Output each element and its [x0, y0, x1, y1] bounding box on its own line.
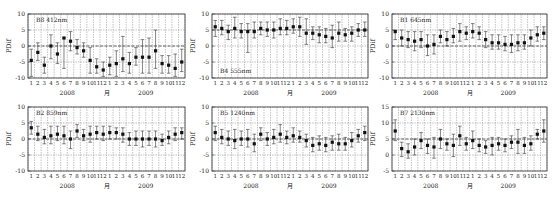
- data-point: [298, 136, 301, 139]
- x-tick-label: 6: [141, 80, 145, 86]
- data-point: [331, 141, 334, 144]
- data-point: [400, 36, 403, 39]
- x-tick-label: 1: [393, 80, 397, 86]
- data-point: [154, 137, 157, 140]
- data-point: [180, 60, 183, 63]
- x-tick-label: 1: [471, 173, 475, 179]
- data-point: [331, 36, 334, 39]
- x-tick-label: 4: [128, 173, 132, 179]
- x-tick-label: 4: [413, 80, 417, 86]
- year-label: 2009: [501, 182, 516, 189]
- x-tick-label: 8: [75, 173, 79, 179]
- x-tick-label: 5: [134, 173, 138, 179]
- data-point: [259, 27, 262, 30]
- y-tick-label: -5: [383, 58, 389, 65]
- x-tick-label: 7: [69, 173, 73, 179]
- year-label: 2009: [138, 182, 153, 189]
- data-point: [128, 137, 131, 140]
- x-tick-label: 2: [36, 80, 40, 86]
- x-tick-label: 1: [214, 173, 218, 179]
- data-point: [305, 32, 308, 35]
- x-tick-label: 6: [426, 80, 430, 86]
- x-tick-label: 7: [432, 80, 436, 86]
- x-tick-label: 8: [337, 80, 341, 86]
- data-point: [227, 137, 230, 140]
- data-point: [529, 142, 532, 145]
- x-tick-label: 7: [432, 173, 436, 179]
- x-tick-label: 5: [497, 173, 501, 179]
- data-point: [311, 32, 314, 35]
- year-label: 2008: [423, 182, 438, 189]
- y-tick-label: -10: [15, 167, 25, 174]
- x-tick-label: 2: [220, 80, 224, 86]
- year-label: 2008: [243, 182, 258, 189]
- year-label: 2008: [243, 89, 258, 96]
- x-tick-label: 7: [147, 80, 151, 86]
- x-tick-label: 1: [471, 80, 475, 86]
- x-tick-label: 4: [49, 80, 53, 86]
- y-tick-label: 10: [381, 10, 389, 17]
- data-point: [305, 139, 308, 142]
- y-axis-label: PDif: [369, 38, 377, 53]
- y-axis-label: PDif: [189, 38, 197, 53]
- y-tick-label: -5: [383, 167, 389, 174]
- x-tick-label: 6: [62, 80, 66, 86]
- x-tick-label: 2: [400, 173, 404, 179]
- data-point: [227, 30, 230, 33]
- data-point: [62, 36, 65, 39]
- data-point: [285, 27, 288, 30]
- x-tick-label: 2: [298, 80, 302, 86]
- x-tick-label: 3: [121, 173, 125, 179]
- y-tick-label: 10: [17, 103, 25, 110]
- data-point: [445, 142, 448, 145]
- data-point: [419, 38, 422, 41]
- data-point: [36, 51, 39, 54]
- data-point: [363, 28, 366, 31]
- x-tick-label: 5: [419, 80, 423, 86]
- data-point: [426, 144, 429, 147]
- y-tick-label: 5: [385, 26, 389, 33]
- data-point: [523, 41, 526, 44]
- x-tick-label: 5: [56, 173, 60, 179]
- x-tick-label: 2: [477, 80, 481, 86]
- panel-label: B5 1240nm: [220, 109, 255, 116]
- data-point: [174, 67, 177, 70]
- x-tick-label: 4: [128, 80, 132, 86]
- x-axis-label: 月: [104, 182, 110, 190]
- data-point: [523, 144, 526, 147]
- x-tick-label: 12: [361, 80, 368, 86]
- data-point: [465, 32, 468, 35]
- data-point: [510, 141, 513, 144]
- data-point: [134, 137, 137, 140]
- y-tick-label: 0: [21, 42, 25, 49]
- chart-panel-2: -10-505101234567891011121234567891011122…: [189, 10, 368, 97]
- data-point: [233, 27, 236, 30]
- data-point: [36, 133, 39, 136]
- data-point: [324, 35, 327, 38]
- x-tick-label: 3: [484, 173, 488, 179]
- data-point: [62, 134, 65, 137]
- data-point: [344, 33, 347, 36]
- y-tick-label: 15: [381, 103, 389, 110]
- y-tick-label: 5: [205, 119, 209, 126]
- data-point: [240, 30, 243, 33]
- x-tick-label: 8: [337, 173, 341, 179]
- x-tick-label: 6: [62, 173, 66, 179]
- y-axis-label: PDif: [5, 131, 13, 146]
- data-point: [394, 30, 397, 33]
- x-tick-label: 3: [305, 80, 309, 86]
- x-tick-label: 5: [240, 80, 244, 86]
- data-point: [458, 30, 461, 33]
- y-tick-label: 5: [21, 119, 25, 126]
- x-tick-label: 3: [406, 80, 410, 86]
- x-tick-label: 8: [259, 80, 263, 86]
- x-tick-label: 8: [259, 173, 263, 179]
- x-tick-label: 5: [318, 173, 322, 179]
- data-point: [318, 33, 321, 36]
- data-point: [478, 144, 481, 147]
- data-point: [394, 129, 397, 132]
- data-point: [337, 142, 340, 145]
- y-axis-label: PDif: [5, 38, 13, 53]
- data-point: [214, 131, 217, 134]
- x-tick-label: 3: [227, 173, 231, 179]
